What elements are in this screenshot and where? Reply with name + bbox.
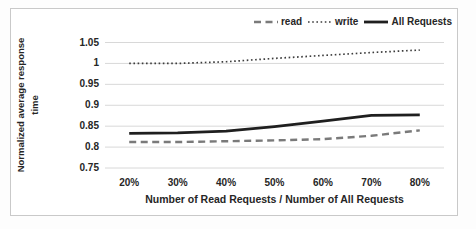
y-tick-label: 0.9 [11,99,99,111]
x-tick-label: 40% [202,177,250,189]
chart-frame: Normalized average response time 0.750.8… [10,8,458,216]
legend-item-write: write [308,16,358,27]
series-line-write [129,50,420,63]
x-tick-label: 70% [347,177,395,189]
x-axis-title: Number of Read Requests / Number of All … [105,193,444,205]
x-tick-label: 80% [396,177,444,189]
y-tick-label: 0.75 [11,162,99,174]
legend-label: All Requests [391,16,452,27]
legend-line-sample-icon [364,19,388,25]
y-tick-label: 1.05 [11,37,99,49]
chart: Normalized average response time 0.750.8… [0,0,476,229]
x-tick-label: 30% [154,177,202,189]
legend-line-sample-icon [254,19,278,25]
y-tick-label: 0.8 [11,141,99,153]
x-tick-label: 60% [299,177,347,189]
y-tick-label: 0.85 [11,120,99,132]
series-line-all-requests [129,115,420,133]
legend-label: write [335,16,358,27]
legend: readwriteAll Requests [254,16,452,27]
legend-item-all-requests: All Requests [364,16,452,27]
y-tick-label: 1 [11,57,99,69]
x-tick-label: 20% [105,177,153,189]
y-tick-label: 0.95 [11,78,99,90]
legend-line-sample-icon [308,19,332,25]
legend-item-read: read [254,16,302,27]
legend-label: read [281,16,302,27]
x-tick-label: 50% [251,177,299,189]
